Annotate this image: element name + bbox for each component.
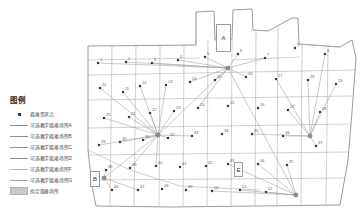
demand-point-marker[interactable] xyxy=(165,84,167,86)
demand-point-marker[interactable] xyxy=(129,167,131,169)
legend-point-symbol xyxy=(18,113,21,116)
demand-point-marker[interactable] xyxy=(122,91,124,93)
demand-point-marker[interactable] xyxy=(191,135,193,137)
demand-point-marker[interactable] xyxy=(103,117,105,119)
shelter-hub-node[interactable] xyxy=(102,176,106,180)
demand-point-marker[interactable] xyxy=(177,59,179,61)
legend-line-symbol xyxy=(10,125,28,126)
legend-panel: 图例 避难需求点可选教学避难场所A可选教学避难场所B可选教学避难场所C可选教学避… xyxy=(8,96,92,197)
legend-line-symbol xyxy=(10,158,28,159)
legend-item-label: 避难需求点 xyxy=(30,111,54,118)
legend-item-label: 可选教学避难场所A xyxy=(30,122,72,129)
legend-item-label: 可选教学避难场所D xyxy=(30,155,72,162)
demand-point-marker[interactable] xyxy=(287,109,289,111)
demand-point-marker[interactable] xyxy=(294,47,296,49)
demand-point-marker[interactable] xyxy=(204,56,206,58)
demand-point-marker[interactable] xyxy=(98,144,100,146)
legend-item-label: 可选教学避难场所C xyxy=(30,144,72,151)
demand-point-marker[interactable] xyxy=(173,110,175,112)
legend-item: 避难需求点 xyxy=(8,109,92,119)
demand-point-marker[interactable] xyxy=(251,133,253,135)
legend-line-symbol xyxy=(10,180,28,181)
area-label-a: A xyxy=(216,24,231,52)
demand-point-marker[interactable] xyxy=(161,188,163,190)
demand-point-marker[interactable] xyxy=(324,53,326,55)
legend-item-label: 拟定避难场所 xyxy=(30,188,59,195)
demand-point-marker[interactable] xyxy=(319,111,321,113)
legend-item: 可选教学避难场所D xyxy=(8,153,92,163)
demand-point-marker[interactable] xyxy=(307,79,309,81)
legend-item-label: 可选教学避难场所B xyxy=(30,133,72,140)
demand-point-marker[interactable] xyxy=(185,189,187,191)
legend-item: 可选教学避难场所G xyxy=(8,175,92,185)
demand-point-marker[interactable] xyxy=(97,62,99,64)
legend-line-symbol xyxy=(10,136,28,137)
demand-point-marker[interactable] xyxy=(119,141,121,143)
demand-point-marker[interactable] xyxy=(257,107,259,109)
demand-point-marker[interactable] xyxy=(227,105,229,107)
demand-point-marker[interactable] xyxy=(189,81,191,83)
demand-point-marker[interactable] xyxy=(111,189,113,191)
demand-point-marker[interactable] xyxy=(335,83,337,85)
demand-point-marker[interactable] xyxy=(205,165,207,167)
demand-point-marker[interactable] xyxy=(265,191,267,193)
demand-point-marker[interactable] xyxy=(221,133,223,135)
demand-point-marker[interactable] xyxy=(128,116,130,118)
demand-point-marker[interactable] xyxy=(197,107,199,109)
legend-item-label: 可选教学避难场所G xyxy=(30,177,72,184)
shelter-hub-node[interactable] xyxy=(226,66,230,70)
demand-point-marker[interactable] xyxy=(167,137,169,139)
legend-rows: 避难需求点可选教学避难场所A可选教学避难场所B可选教学避难场所C可选教学避难场所… xyxy=(8,109,92,196)
demand-point-marker[interactable] xyxy=(179,166,181,168)
demand-point-marker[interactable] xyxy=(105,169,107,171)
legend-item: 拟定避难场所 xyxy=(8,186,92,196)
legend-area-swatch xyxy=(10,187,28,195)
demand-point-marker[interactable] xyxy=(142,139,144,141)
demand-point-marker[interactable] xyxy=(286,164,288,166)
demand-point-marker[interactable] xyxy=(149,112,151,114)
map-canvas: 1234567891011121314151617181920212223242… xyxy=(0,0,364,215)
legend-item-label: 可选教学避难场所F xyxy=(30,166,71,173)
shelter-hub-node[interactable] xyxy=(308,134,312,138)
legend-item: 可选教学避难场所B xyxy=(8,131,92,141)
demand-point-marker[interactable] xyxy=(257,163,259,165)
demand-point-marker[interactable] xyxy=(151,62,153,64)
demand-point-marker[interactable] xyxy=(264,57,266,59)
legend-item: 可选教学避难场所C xyxy=(8,142,92,152)
demand-point-marker[interactable] xyxy=(137,189,139,191)
shelter-hub-node[interactable] xyxy=(294,193,298,197)
demand-point-marker[interactable] xyxy=(214,79,216,81)
demand-point-marker[interactable] xyxy=(125,61,127,63)
demand-point-marker[interactable] xyxy=(282,135,284,137)
demand-point-marker[interactable] xyxy=(275,78,277,80)
legend-title: 图例 xyxy=(10,96,92,105)
demand-point-marker[interactable] xyxy=(239,189,241,191)
demand-point-marker[interactable] xyxy=(139,85,141,87)
demand-point-marker[interactable] xyxy=(245,76,247,78)
legend-line-symbol xyxy=(10,169,28,170)
demand-point-marker[interactable] xyxy=(237,53,239,55)
legend-item: 可选教学避难场所A xyxy=(8,120,92,130)
shelter-hub-node[interactable] xyxy=(156,133,160,137)
demand-point-marker[interactable] xyxy=(315,145,317,147)
demand-point-marker[interactable] xyxy=(211,190,213,192)
legend-line-symbol xyxy=(10,147,28,148)
legend-item: 可选教学避难场所F xyxy=(8,164,92,174)
area-label-e: E xyxy=(234,162,243,177)
demand-point-marker[interactable] xyxy=(227,163,229,165)
demand-point-marker[interactable] xyxy=(99,87,101,89)
demand-point-marker[interactable] xyxy=(155,165,157,167)
